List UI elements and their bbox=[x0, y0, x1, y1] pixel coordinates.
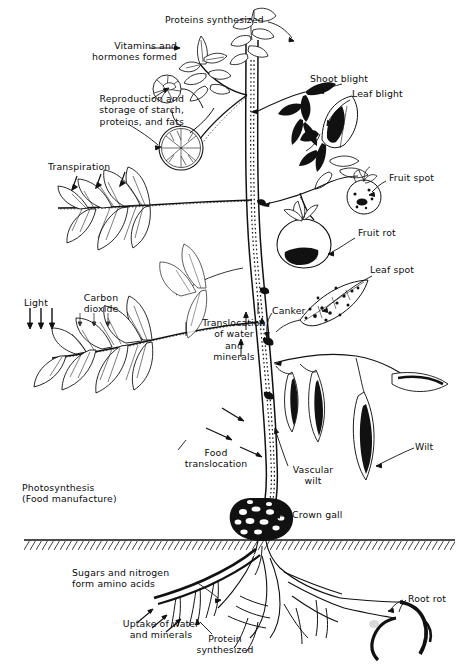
label-vascular-wilt: Vascular wilt bbox=[286, 464, 340, 487]
label-light: Light bbox=[24, 297, 48, 308]
fruit-rot-symptom bbox=[277, 197, 331, 268]
label-canker: Canker bbox=[272, 305, 306, 316]
label-crown-gall: Crown gall bbox=[292, 509, 343, 520]
label-leaf-blight: Leaf blight bbox=[352, 88, 403, 99]
label-vitamins-and-hormones-formed: Vitamins and hormones formed bbox=[22, 40, 177, 63]
label-leaf-spot: Leaf spot bbox=[370, 264, 414, 275]
label-food-translocation: Food translocation bbox=[180, 447, 252, 470]
label-transpiration: Transpiration bbox=[48, 161, 110, 172]
crown-gall-symptom bbox=[230, 498, 293, 541]
label-sugars-and-nitrogen: Sugars and nitrogen form amino acids bbox=[72, 567, 214, 590]
label-fruit-spot: Fruit spot bbox=[389, 172, 434, 183]
root-rot-symptom bbox=[372, 602, 431, 660]
label-protein-synthesized-root: Protein synthesized bbox=[196, 633, 254, 656]
label-carbon-dioxide: Carbon dioxide bbox=[74, 292, 128, 315]
upper-left-leaflets bbox=[179, 36, 231, 101]
label-proteins-synthesized-top: Proteins synthesized bbox=[165, 14, 264, 25]
soil-line bbox=[24, 540, 455, 550]
label-wilt: Wilt bbox=[415, 441, 433, 452]
label-reproduction-and-storage: Reproduction and storage of starch, prot… bbox=[24, 93, 184, 127]
root-rot-lesion-blob bbox=[369, 620, 379, 628]
label-shoot-blight: Shoot blight bbox=[310, 73, 368, 84]
label-root-rot: Root rot bbox=[408, 593, 446, 604]
label-photosynthesis: Photosynthesis (Food manufacture) bbox=[22, 482, 172, 505]
leaf-transpiration bbox=[58, 167, 252, 250]
diagram-canvas: Proteins synthesized Vitamins and hormon… bbox=[0, 0, 473, 667]
label-fruit-rot: Fruit rot bbox=[358, 227, 396, 238]
label-translocation-of-water-and-minerals: Translocation of water and minerals bbox=[190, 317, 278, 363]
light-arrows bbox=[27, 308, 54, 329]
main-stem bbox=[246, 38, 278, 501]
wilt-leaves bbox=[274, 354, 448, 480]
